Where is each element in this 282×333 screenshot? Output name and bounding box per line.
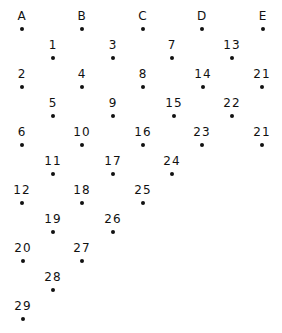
node-label: 18 [67, 184, 97, 196]
node-label: E [248, 10, 278, 22]
dot-icon [261, 27, 265, 31]
node-label: 10 [67, 126, 97, 138]
dot-icon [20, 143, 24, 147]
dot-icon [20, 27, 24, 31]
dot-icon [80, 201, 84, 205]
dot-icon [141, 143, 145, 147]
dot-icon [80, 27, 84, 31]
node-label: 29 [8, 300, 38, 312]
dot-icon [111, 230, 115, 234]
node-label: 24 [157, 155, 187, 167]
node-label: 16 [128, 126, 158, 138]
dot-icon [170, 56, 174, 60]
node-label: 21 [247, 126, 277, 138]
node-label: 11 [38, 155, 68, 167]
dot-icon [111, 114, 115, 118]
node-label: 2 [7, 68, 37, 80]
node-label: 9 [98, 97, 128, 109]
node-label: 27 [67, 242, 97, 254]
dot-icon [141, 85, 145, 89]
dot-icon [80, 259, 84, 263]
dot-icon [141, 27, 145, 31]
node-label: 26 [98, 213, 128, 225]
dot-icon [200, 27, 204, 31]
node-label: 23 [187, 126, 217, 138]
dot-grid-diagram: ABCDE13713248142159152261016232111172412… [0, 0, 282, 333]
node-label: C [128, 10, 158, 22]
dot-icon [172, 114, 176, 118]
node-label: A [7, 10, 37, 22]
dot-icon [80, 143, 84, 147]
node-label: 4 [67, 68, 97, 80]
node-label: 17 [98, 155, 128, 167]
node-label: 20 [8, 242, 38, 254]
node-label: 19 [38, 213, 68, 225]
dot-icon [21, 259, 25, 263]
dot-icon [111, 172, 115, 176]
dot-icon [111, 56, 115, 60]
node-label: 6 [7, 126, 37, 138]
node-label: 14 [188, 68, 218, 80]
dot-icon [260, 143, 264, 147]
node-label: 1 [38, 39, 68, 51]
dot-icon [51, 230, 55, 234]
dot-icon [201, 85, 205, 89]
dot-icon [230, 114, 234, 118]
dot-icon [51, 56, 55, 60]
dot-icon [230, 56, 234, 60]
dot-icon [20, 201, 24, 205]
node-label: 21 [247, 68, 277, 80]
dot-icon [20, 85, 24, 89]
node-label: D [187, 10, 217, 22]
dot-icon [170, 172, 174, 176]
dot-icon [51, 288, 55, 292]
node-label: 13 [217, 39, 247, 51]
node-label: 8 [128, 68, 158, 80]
node-label: 22 [217, 97, 247, 109]
dot-icon [80, 85, 84, 89]
node-label: 28 [38, 271, 68, 283]
dot-icon [200, 143, 204, 147]
node-label: B [67, 10, 97, 22]
node-label: 12 [7, 184, 37, 196]
node-label: 25 [128, 184, 158, 196]
dot-icon [21, 317, 25, 321]
dot-icon [51, 172, 55, 176]
dot-icon [51, 114, 55, 118]
node-label: 5 [38, 97, 68, 109]
node-label: 3 [98, 39, 128, 51]
node-label: 15 [159, 97, 189, 109]
node-label: 7 [157, 39, 187, 51]
dot-icon [141, 201, 145, 205]
dot-icon [260, 85, 264, 89]
